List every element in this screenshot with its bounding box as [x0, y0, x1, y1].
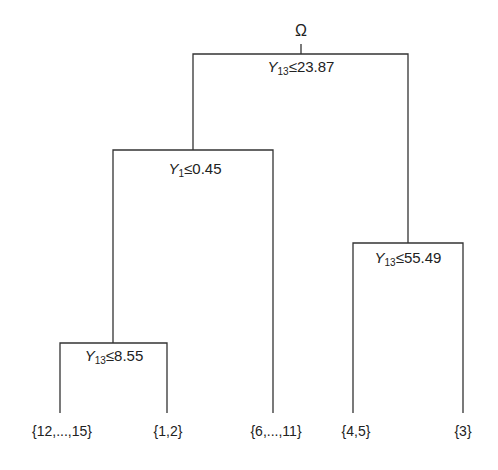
leaf-2: {1,2}: [154, 423, 183, 439]
left-left-split-label: Y13≤8.55: [85, 347, 144, 366]
root-split-label: Y13≤23.87: [268, 58, 335, 77]
right-split-label: Y13≤55.49: [375, 249, 442, 268]
leaf-3: {6,...,11}: [250, 423, 301, 439]
leaf-1: {12,...,15}: [32, 423, 92, 439]
root-label: Ω: [295, 22, 307, 40]
tree-lines: [0, 0, 498, 470]
leaf-4: {4,5}: [342, 423, 371, 439]
leaf-5: {3}: [454, 423, 471, 439]
left-split-label: Y1≤0.45: [168, 160, 221, 179]
